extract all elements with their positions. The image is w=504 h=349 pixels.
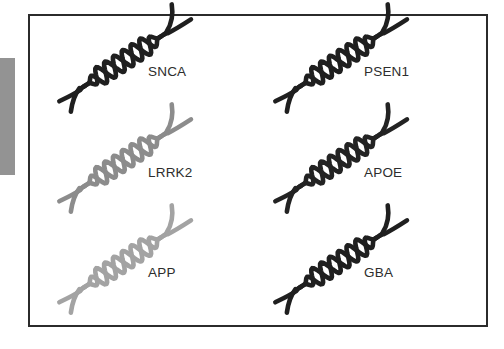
dna-double-helix-icon xyxy=(62,27,146,113)
gene-item-0[interactable]: SNCA xyxy=(44,20,260,120)
gene-item-1[interactable]: PSEN1 xyxy=(260,20,476,120)
dna-double-helix-icon xyxy=(62,127,146,213)
gene-label: LRRK2 xyxy=(148,166,193,180)
gene-item-5[interactable]: GBA xyxy=(260,221,476,321)
dna-double-helix-icon xyxy=(62,127,146,213)
helix-strand xyxy=(75,226,172,298)
gene-label: SNCA xyxy=(148,65,186,79)
dna-double-helix-icon xyxy=(278,228,362,314)
gene-item-3[interactable]: APOE xyxy=(260,120,476,220)
dna-double-helix-icon xyxy=(62,228,146,314)
dna-double-helix-icon xyxy=(278,27,362,113)
gene-item-4[interactable]: APP xyxy=(44,221,260,321)
gene-label: GBA xyxy=(364,266,393,280)
dna-double-helix-icon xyxy=(278,228,362,314)
gene-panel: SNCA PSEN1 LRRK2 APOE APP GBA xyxy=(28,14,488,327)
helix-strand xyxy=(291,226,388,298)
left-edge-marker xyxy=(0,58,15,175)
dna-double-helix-icon xyxy=(62,228,146,314)
helix-strand xyxy=(291,25,388,97)
gene-grid: SNCA PSEN1 LRRK2 APOE APP GBA xyxy=(30,16,486,325)
dna-double-helix-icon xyxy=(278,127,362,213)
dna-double-helix-icon xyxy=(278,27,362,113)
dna-double-helix-icon xyxy=(278,127,362,213)
helix-strand xyxy=(75,125,172,197)
helix-strand xyxy=(75,25,172,97)
gene-label: APOE xyxy=(364,166,402,180)
gene-label: PSEN1 xyxy=(364,65,409,79)
figure-canvas: SNCA PSEN1 LRRK2 APOE APP GBA xyxy=(0,0,504,349)
gene-item-2[interactable]: LRRK2 xyxy=(44,120,260,220)
helix-strand xyxy=(291,125,388,197)
dna-double-helix-icon xyxy=(62,27,146,113)
gene-label: APP xyxy=(148,266,176,280)
